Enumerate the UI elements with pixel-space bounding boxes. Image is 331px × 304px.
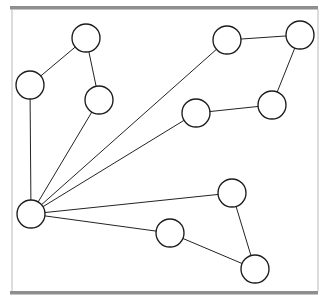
node-circle[interactable] [182, 99, 210, 127]
graph-node[interactable] [17, 200, 45, 228]
graph-edge [44, 194, 218, 212]
node-circle[interactable] [218, 179, 246, 207]
graph-canvas [0, 0, 331, 304]
node-layer [16, 21, 314, 283]
graph-edge [41, 49, 217, 205]
graph-edge [182, 238, 242, 263]
graph-node[interactable] [16, 71, 44, 99]
graph-node[interactable] [85, 86, 113, 114]
node-circle[interactable] [258, 91, 286, 119]
node-circle[interactable] [72, 24, 100, 52]
node-circle[interactable] [241, 255, 269, 283]
frame-bottom-bar [10, 291, 318, 295]
graph-node[interactable] [218, 179, 246, 207]
graph-edge [209, 106, 258, 111]
graph-edge [43, 120, 185, 207]
graph-node[interactable] [286, 21, 314, 49]
node-circle[interactable] [16, 71, 44, 99]
frame-layer [10, 6, 318, 295]
graph-node[interactable] [213, 26, 241, 54]
graph-node[interactable] [156, 219, 184, 247]
graph-node[interactable] [182, 99, 210, 127]
graph-edge [277, 48, 295, 93]
graph-edge [89, 51, 96, 87]
graph-node[interactable] [258, 91, 286, 119]
graph-edge [40, 47, 75, 77]
graph-node[interactable] [72, 24, 100, 52]
node-circle[interactable] [156, 219, 184, 247]
graph-edge [30, 98, 31, 200]
node-circle[interactable] [17, 200, 45, 228]
graph-figure [0, 0, 331, 304]
graph-edge [240, 36, 286, 39]
graph-edge [38, 112, 92, 203]
node-circle[interactable] [85, 86, 113, 114]
graph-edge [44, 216, 156, 231]
graph-edge [236, 206, 251, 256]
node-circle[interactable] [213, 26, 241, 54]
node-circle[interactable] [286, 21, 314, 49]
graph-node[interactable] [241, 255, 269, 283]
frame-top-bar [10, 6, 318, 10]
